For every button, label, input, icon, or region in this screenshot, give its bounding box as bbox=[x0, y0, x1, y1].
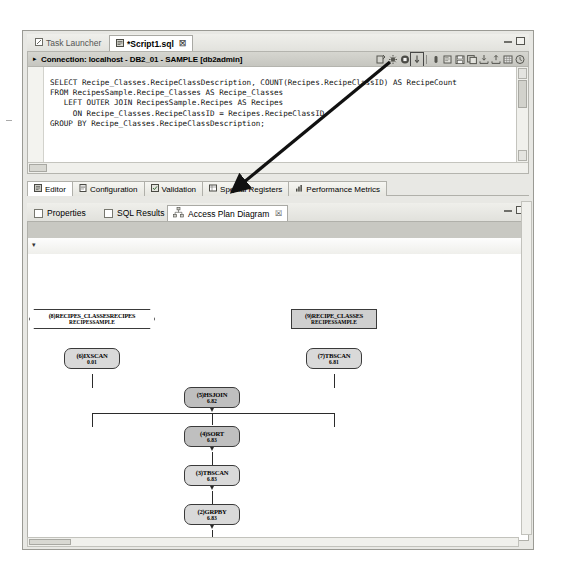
scroll-down-button[interactable] bbox=[518, 150, 527, 161]
settings-gear-icon[interactable] bbox=[388, 54, 398, 65]
window-buttons bbox=[504, 37, 525, 45]
node-cost: 0.01 bbox=[87, 359, 97, 365]
node-operator: (8)RECIPES_CLASSESRECIPES bbox=[49, 312, 135, 319]
sql-code-editor[interactable]: SELECT Recipe_Classes.RecipeClassDescrip… bbox=[27, 66, 529, 174]
run-sql-icon[interactable] bbox=[376, 54, 386, 65]
tab-label: Properties bbox=[47, 208, 86, 218]
history-clock-icon[interactable] bbox=[515, 54, 525, 65]
edge-hsjoin-branch bbox=[92, 413, 334, 414]
node-cost: 6.81 bbox=[329, 359, 339, 365]
grid-icon[interactable] bbox=[503, 54, 513, 65]
connection-bar[interactable]: ▸ Connection: localhost - DB2_01 - SAMPL… bbox=[27, 51, 529, 66]
tab-label: *Script1.sql bbox=[127, 39, 174, 49]
tab-task-launcher[interactable]: Task Launcher bbox=[29, 35, 107, 51]
tab-label: Configuration bbox=[90, 185, 138, 194]
node-operator: (2)GRPBY bbox=[197, 508, 226, 515]
hscroll-thumb[interactable] bbox=[29, 164, 47, 172]
node-table-recipe-classes[interactable]: (9)RECIPE_CLASSES RECIPESSAMPLE bbox=[291, 309, 377, 329]
node-operator: (7)TBSCAN bbox=[318, 352, 351, 359]
node-ixscan[interactable]: (6)IXSCAN 0.01 bbox=[64, 348, 120, 369]
node-cost: 6.83 bbox=[207, 476, 217, 482]
save-all-icon[interactable] bbox=[467, 54, 477, 65]
performance-metrics-icon bbox=[295, 184, 303, 194]
results-part: Properties SQL Results Access Plan Diagr… bbox=[27, 203, 529, 541]
tab-label: Editor bbox=[45, 185, 66, 194]
open-file-icon[interactable] bbox=[443, 54, 453, 65]
edge-to-ixscan bbox=[92, 413, 93, 427]
node-schema: RECIPESSAMPLE bbox=[311, 319, 357, 325]
scroll-up-button[interactable] bbox=[518, 68, 527, 79]
tab-script1-sql[interactable]: *Script1.sql ☒ bbox=[109, 35, 193, 51]
node-cost: 6.83 bbox=[207, 515, 217, 521]
tab-editor[interactable]: Editor bbox=[27, 181, 73, 196]
node-sort[interactable]: (4)SORT 6.83 bbox=[184, 426, 240, 447]
access-plan-header-band: ▾ bbox=[28, 238, 528, 255]
properties-icon bbox=[34, 209, 43, 218]
node-hsjoin[interactable]: (5)HSJOIN 6.82 bbox=[184, 387, 240, 408]
scroll-thumb[interactable] bbox=[518, 80, 527, 108]
tab-label: Task Launcher bbox=[46, 38, 101, 48]
tab-performance-metrics[interactable]: Performance Metrics bbox=[288, 181, 387, 196]
arrowhead-hsjoin bbox=[210, 408, 214, 412]
node-operator: (5)HSJOIN bbox=[197, 391, 227, 398]
editor-gutter bbox=[28, 67, 44, 173]
access-plan-panel: ▾ bbox=[27, 221, 529, 541]
node-tbscan-right[interactable]: (7)TBSCAN 6.81 bbox=[306, 348, 362, 369]
tab-sql-results[interactable]: SQL Results bbox=[99, 205, 169, 221]
node-operator: (4)SORT bbox=[200, 430, 224, 437]
tab-configuration[interactable]: Configuration bbox=[72, 181, 145, 196]
tab-special-registers[interactable]: Special Registers bbox=[202, 181, 289, 196]
results-tab-row: Properties SQL Results Access Plan Diagr… bbox=[27, 203, 529, 221]
explain-access-plan-icon[interactable] bbox=[412, 54, 422, 65]
configuration-icon bbox=[79, 184, 87, 194]
close-icon[interactable]: ☒ bbox=[179, 39, 186, 48]
save-icon[interactable] bbox=[455, 54, 465, 65]
arrowhead-sort bbox=[210, 447, 214, 451]
sql-results-icon bbox=[104, 209, 113, 218]
node-operator: (3)TBSCAN bbox=[196, 469, 229, 476]
editor-horizontal-scrollbar[interactable] bbox=[28, 162, 528, 173]
edge-tbscan-table bbox=[334, 374, 335, 388]
minimize-button[interactable] bbox=[504, 208, 512, 212]
maximize-button[interactable] bbox=[516, 37, 525, 45]
editor-vertical-scrollbar[interactable] bbox=[516, 67, 528, 173]
chevron-down-icon[interactable]: ▾ bbox=[32, 241, 36, 249]
access-plan-canvas[interactable]: (1)RETURN 6.83 (2)GRPBY 6.83 (3)TBSCAN 6… bbox=[28, 264, 528, 540]
sql-text[interactable]: SELECT Recipe_Classes.RecipeClassDescrip… bbox=[50, 78, 514, 130]
validation-icon bbox=[151, 184, 159, 194]
edge-hsjoin-down bbox=[212, 413, 213, 425]
ruler-tick bbox=[6, 120, 12, 121]
node-index-recipes-classes[interactable]: (8)RECIPES_CLASSESRECIPES RECIPESSAMPLE bbox=[29, 309, 155, 329]
tab-label: Special Registers bbox=[220, 185, 282, 194]
debug-icon[interactable] bbox=[431, 54, 441, 65]
window-horizontal-scrollbar[interactable] bbox=[27, 537, 519, 547]
export-icon[interactable] bbox=[491, 54, 501, 65]
window-vertical-scrollbar[interactable] bbox=[521, 201, 532, 535]
close-icon[interactable]: ☒ bbox=[275, 209, 282, 218]
editor-tab-row: Task Launcher *Script1.sql ☒ bbox=[27, 34, 529, 51]
tab-filler bbox=[386, 180, 529, 196]
editor-bottom-tabs: Editor Configuration Validation Special … bbox=[27, 180, 529, 196]
access-plan-toolbar bbox=[28, 222, 528, 238]
hscroll-thumb[interactable] bbox=[29, 539, 71, 545]
minimize-button[interactable] bbox=[504, 39, 512, 43]
tab-access-plan-diagram[interactable]: Access Plan Diagram ☒ bbox=[167, 205, 288, 221]
node-schema: RECIPESSAMPLE bbox=[69, 319, 115, 325]
chevron-right-icon[interactable]: ▸ bbox=[33, 55, 37, 63]
tab-label: Access Plan Diagram bbox=[188, 209, 269, 219]
node-tbscan-top[interactable]: (3)TBSCAN 6.83 bbox=[184, 465, 240, 486]
arrowhead-tbscan bbox=[210, 486, 214, 490]
tab-label: Validation bbox=[162, 185, 197, 194]
editor-toolbar bbox=[376, 52, 525, 67]
tab-validation[interactable]: Validation bbox=[144, 181, 204, 196]
tab-label: SQL Results bbox=[117, 208, 164, 218]
sql-editor-window: Task Launcher *Script1.sql ☒ ▸ Connectio… bbox=[22, 30, 534, 550]
node-grpby[interactable]: (2)GRPBY 6.83 bbox=[184, 504, 240, 525]
stop-icon[interactable] bbox=[400, 54, 410, 65]
sql-script-icon bbox=[116, 39, 124, 49]
edge-to-tbscan-right bbox=[334, 413, 335, 427]
import-icon[interactable] bbox=[479, 54, 489, 65]
toolbar-separator bbox=[426, 55, 427, 64]
access-plan-diagram-icon bbox=[173, 207, 184, 220]
tab-properties[interactable]: Properties bbox=[29, 205, 91, 221]
